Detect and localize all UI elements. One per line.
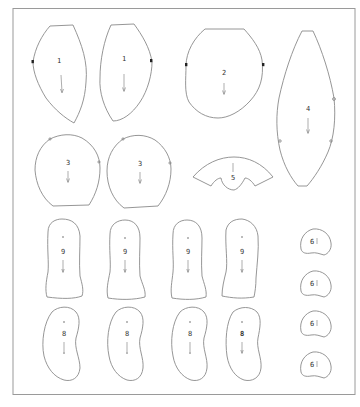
piece-label: 8 — [62, 330, 66, 338]
pattern-piece-6-a: 6 — [301, 229, 332, 255]
piece-label: 5 — [231, 174, 235, 182]
pattern-piece-6-b: 6 — [301, 271, 332, 297]
pattern-piece-9-b: 9 — [107, 220, 145, 299]
notch-marker — [150, 59, 152, 62]
pattern-piece-9-c: 9 — [171, 220, 206, 299]
piece-label: 8 — [188, 330, 192, 338]
notch-marker — [32, 60, 34, 63]
pattern-piece-8-a: 8 — [43, 307, 80, 380]
piece-label: 6 — [310, 361, 314, 369]
pattern-piece-8-d: 8 — [226, 308, 261, 381]
pattern-piece-3-left: 3 — [35, 135, 100, 206]
pattern-piece-9-d: 9 — [222, 219, 258, 298]
piece-label: 1 — [122, 55, 126, 63]
piece-label: 3 — [66, 159, 70, 167]
piece-label: 1 — [57, 57, 61, 65]
piece-label: 6 — [310, 280, 314, 288]
piece-label: 6 — [310, 320, 314, 328]
piece-label: 2 — [222, 69, 226, 77]
piece-label: 9 — [61, 248, 65, 256]
piece-label: 6 — [310, 238, 314, 246]
pattern-piece-8-b: 8 — [108, 307, 143, 380]
piece-label: 9 — [240, 248, 244, 256]
pattern-piece-3-right: 3 — [107, 135, 171, 208]
pattern-piece-4: 4 — [277, 31, 336, 186]
piece-label: 8 — [125, 330, 129, 338]
notch-marker — [185, 63, 187, 66]
piece-label: 9 — [186, 248, 190, 256]
pattern-piece-5: 5 — [193, 157, 273, 190]
piece-label: 9 — [123, 248, 127, 256]
pattern-piece-2: 2 — [185, 29, 264, 118]
piece-label: 4 — [306, 105, 310, 113]
pattern-piece-1-right: 1 — [100, 24, 153, 121]
pattern-piece-6-c: 6 — [301, 311, 332, 337]
notch-marker — [262, 63, 264, 66]
pattern-layout-diagram: 1 1 2 4 3 — [0, 0, 360, 407]
pattern-piece-9-a: 9 — [46, 219, 83, 298]
pattern-piece-6-d: 6 — [301, 352, 332, 378]
pattern-piece-1-left: 1 — [32, 25, 87, 123]
grain-arrow-icon — [61, 75, 62, 92]
piece-label: 8 — [240, 330, 244, 338]
pattern-piece-8-c: 8 — [172, 307, 207, 380]
piece-label: 3 — [138, 160, 142, 168]
